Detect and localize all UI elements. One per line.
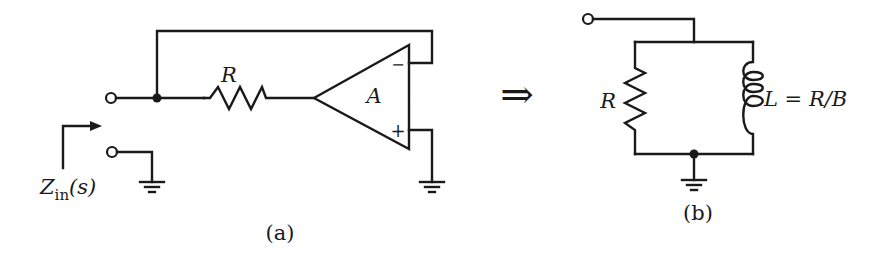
panel-a: R A − + Zin(s) (a): [39, 31, 444, 245]
resistor-b: [625, 42, 645, 154]
junction-node: [153, 94, 162, 103]
minus-label: −: [391, 55, 404, 74]
amplifier-gain-label: A: [364, 84, 381, 108]
ground-icon: [420, 182, 444, 192]
plus-input-wire: [409, 130, 432, 182]
implies-arrow-icon: ⇒: [500, 71, 534, 117]
terminal-wire-b: [593, 19, 694, 42]
arrow-head-icon: [90, 121, 102, 131]
ground-icon: [140, 182, 164, 192]
impedance-arrow: [63, 126, 92, 168]
plus-label: +: [390, 120, 405, 141]
circuit-diagram: R A − + Zin(s) (a) ⇒ R L = R/B (b): [0, 0, 878, 258]
caption-a: (a): [266, 221, 295, 245]
inductor-l: [743, 42, 763, 154]
caption-b: (b): [683, 201, 713, 225]
ground-icon: [682, 180, 706, 190]
impedance-label: Zin(s): [39, 175, 96, 204]
resistor-label-b: R: [599, 89, 616, 113]
panel-b: R L = R/B (b): [583, 14, 847, 225]
resistor-r: [204, 87, 314, 109]
resistor-label: R: [220, 63, 237, 87]
inductor-label: L = R/B: [763, 87, 847, 111]
input-terminal-top: [106, 93, 116, 103]
ground-wire: [117, 152, 152, 182]
input-terminal-bottom: [107, 147, 117, 157]
terminal-b: [583, 14, 593, 24]
